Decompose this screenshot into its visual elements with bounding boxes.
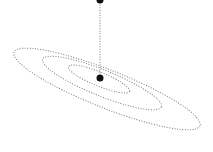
orbit-diagram — [0, 0, 213, 152]
orbit-middle — [38, 47, 166, 119]
orbit-ellipses — [7, 35, 207, 144]
top-point — [97, 0, 104, 4]
orbit-diagram-svg — [0, 0, 213, 152]
center-point — [97, 75, 104, 82]
